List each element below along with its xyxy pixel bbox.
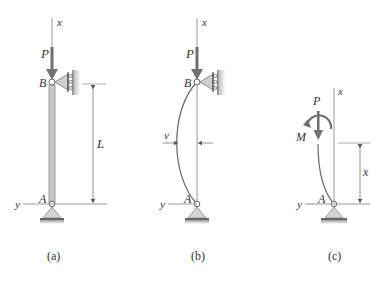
pin-b-label: B [39,76,47,90]
distance-label: x [362,165,369,179]
moment-label: M [295,130,307,144]
ground-support-icon [321,207,347,224]
roller-support-icon [200,70,226,95]
deflection-label: v [164,129,169,141]
length-label: L [96,136,104,151]
y-axis-label: y [14,198,20,210]
x-axis-label: x [56,16,62,28]
roller-support-icon [55,70,81,95]
x-axis-label: x [337,85,343,97]
x-axis-label: x [201,16,207,28]
column [49,85,55,203]
load-label: P [312,94,321,108]
caption-c: (c) [328,249,341,263]
pin-b-icon [49,79,55,85]
y-axis-label: y [159,198,165,210]
ground-support-icon [40,207,64,224]
load-label: P [40,46,49,61]
deflected-column-curve [177,82,197,204]
load-label: P [185,46,194,61]
caption-b: (b) [191,249,205,263]
column-buckling-figure: x P B A y [0,0,389,283]
pin-b-icon [194,79,200,85]
pin-b-label: B [184,76,192,90]
panel-a: x P B A y [14,16,107,263]
ground-support-icon [185,207,209,224]
panel-b: x P B v A y (b) [159,16,226,263]
panel-c: x P M A y x (c) [295,85,371,263]
y-axis-label: y [296,198,302,210]
caption-a: (a) [47,249,60,263]
